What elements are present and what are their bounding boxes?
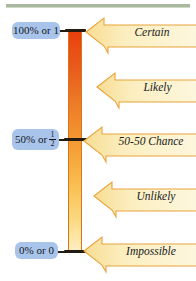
top-divider-rule-highlight [6,7,190,8]
arrow-impossible: Impossible [84,236,196,272]
arrow-fifty-fifty: 50-50 Chance [84,126,196,162]
value-label-50-percent: 50% or 1 2 [12,129,59,150]
fraction-numerator: 1 [51,131,55,139]
arrow-certain: Certain [86,17,196,53]
probability-gradient-bar [68,31,82,252]
left-arrow-icon [84,236,196,272]
fraction-denominator: 2 [51,140,55,148]
value-label-0-percent: 0% or 0 [15,242,58,259]
left-arrow-icon [86,17,196,53]
fraction-one-half: 1 2 [49,131,56,148]
value-label-100-percent: 100% or 1 [12,22,60,39]
probability-scale-figure: 100% or 1 50% or 1 2 0% or 0 Certain [0,0,196,281]
value-label-0-percent-text: 0% or 0 [19,245,54,256]
arrow-unlikely: Unlikely [94,181,196,217]
left-arrow-icon [94,181,196,217]
connector-line-0-percent [56,251,70,253]
value-label-100-percent-text: 100% or 1 [13,25,59,36]
arrow-likely: Likely [97,72,196,108]
left-arrow-icon [84,126,196,162]
value-label-50-percent-text: 50% or [15,134,47,145]
left-arrow-icon [97,72,196,108]
